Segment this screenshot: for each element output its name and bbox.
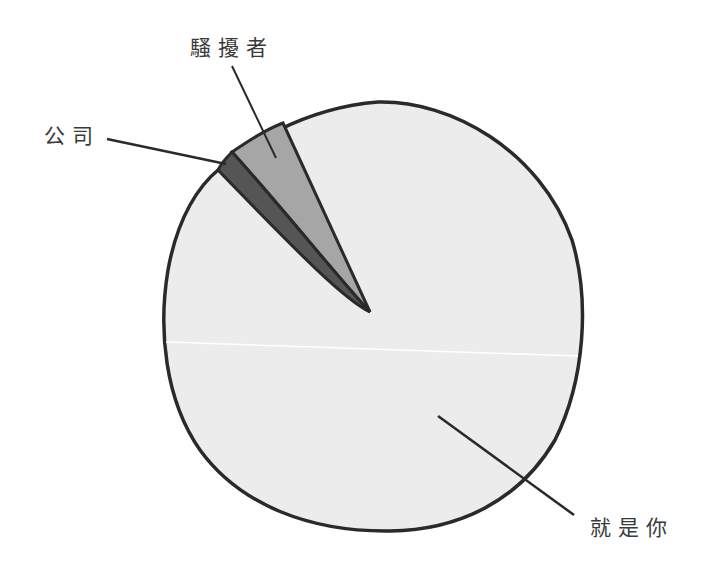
pie-chart <box>0 0 718 568</box>
label-company: 公司 <box>44 119 100 149</box>
leader-line-company <box>107 139 226 164</box>
label-harasser: 騷擾者 <box>190 31 274 61</box>
label-you: 就是你 <box>590 511 674 541</box>
